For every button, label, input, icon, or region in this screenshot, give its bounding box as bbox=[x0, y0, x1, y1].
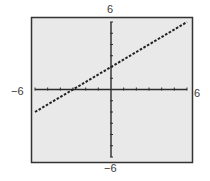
graph-window bbox=[0, 0, 210, 181]
xmin-label: −6 bbox=[11, 86, 24, 97]
ymax-label: 6 bbox=[107, 4, 113, 15]
ymin-label: −6 bbox=[104, 163, 117, 174]
xmax-label: 6 bbox=[194, 88, 200, 99]
